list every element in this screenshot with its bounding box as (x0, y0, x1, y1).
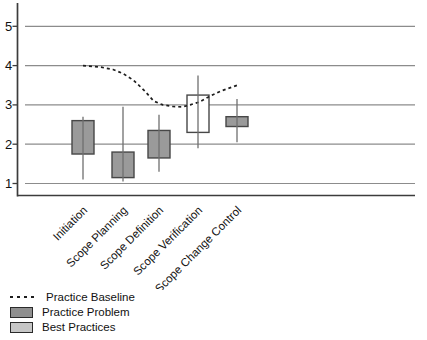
x-axis-label-scope-verification: Scope Verification (131, 204, 205, 278)
practice-baseline-line (83, 66, 237, 107)
legend-item-practice-problem: Practice Problem (10, 306, 135, 318)
legend-item-practice-baseline: Practice Baseline (10, 291, 135, 303)
legend-item-best-practices: Best Practices (10, 321, 135, 333)
y-axis-label-5: 5 (5, 19, 12, 34)
y-axis-label-2: 2 (5, 137, 12, 152)
y-axis-label-1: 1 (5, 176, 12, 191)
legend-label-best-practices: Best Practices (42, 321, 116, 333)
dashed-line-swatch (10, 296, 37, 298)
scope-management-maturity-figure: 12345InitiationScope PlanningScope Defin… (0, 0, 427, 340)
y-axis-label-4: 4 (5, 58, 12, 73)
legend-label-practice-baseline: Practice Baseline (46, 291, 135, 303)
best-practices-swatch (10, 322, 33, 333)
y-axis-label-3: 3 (5, 97, 12, 112)
legend-label-practice-problem: Practice Problem (42, 306, 130, 318)
x-axis-label-initiation: Initiation (51, 204, 90, 243)
chart-legend: Practice Baseline Practice Problem Best … (10, 291, 135, 336)
box-plot-chart: 12345InitiationScope PlanningScope Defin… (0, 0, 427, 290)
practice-problem-swatch (10, 307, 33, 318)
